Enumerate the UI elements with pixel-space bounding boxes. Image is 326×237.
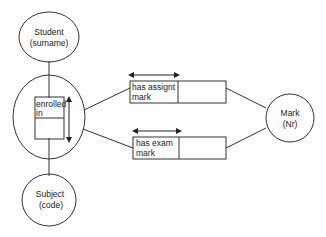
entity-subject[interactable]: Subject (code) bbox=[22, 174, 76, 226]
relationship-has-assignt-mark[interactable]: has assignt mark bbox=[130, 75, 226, 103]
assign-label: has assignt bbox=[132, 82, 176, 92]
entity-student[interactable]: Student (surname) bbox=[19, 12, 79, 62]
student-sublabel: (surname) bbox=[30, 38, 69, 48]
exam-label: has exam bbox=[136, 138, 173, 148]
exam-mark-link bbox=[226, 128, 266, 148]
subject-label: Subject bbox=[36, 189, 65, 199]
mark-label: Mark bbox=[281, 108, 301, 118]
subject-sublabel: (code) bbox=[39, 200, 63, 210]
entity-mark[interactable]: Mark (Nr) bbox=[266, 94, 314, 142]
exam-sublabel: mark bbox=[136, 148, 156, 158]
enrolled-exam-link bbox=[83, 129, 133, 148]
enrolled-sublabel: in bbox=[36, 108, 43, 118]
student-label: Student bbox=[34, 27, 64, 37]
mark-sublabel: (Nr) bbox=[283, 119, 298, 129]
enrolled-assign-link bbox=[84, 88, 130, 110]
assign-mark-link bbox=[226, 88, 266, 108]
diagram-canvas: Student (surname) enrolled in Subject (c… bbox=[0, 0, 326, 237]
relationship-has-exam-mark[interactable]: has exam mark bbox=[133, 131, 226, 159]
assign-sublabel: mark bbox=[132, 92, 152, 102]
